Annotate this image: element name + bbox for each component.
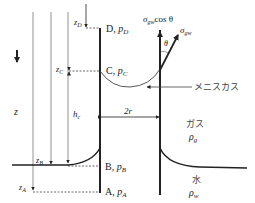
rho-w-label: ρw: [188, 187, 199, 200]
two-r-label: 2r: [124, 106, 133, 116]
hc-label: hc: [73, 109, 81, 120]
sigma-vector: [160, 35, 178, 70]
zB-label: zB: [35, 156, 43, 166]
z-axis: z: [13, 50, 18, 117]
meniscus-label: メニスカス: [194, 82, 239, 92]
water-surface-right: [160, 148, 247, 168]
zA-label: zA: [18, 183, 26, 193]
point-D-label: D, pD: [106, 23, 128, 36]
water-surface-left: [12, 148, 100, 165]
water-label: 水: [192, 174, 201, 185]
gas-label: ガス: [186, 119, 204, 129]
sigma-cos-label: σgwcos θ: [143, 14, 173, 25]
theta-label: θ: [164, 39, 168, 48]
zD-label: zD: [73, 18, 82, 28]
point-C-label: C, pC: [106, 65, 128, 78]
sigma-label: σgw: [180, 25, 191, 36]
z-axis-label: z: [13, 106, 18, 117]
zC-label: zC: [55, 65, 64, 75]
point-A-label: A, pA: [105, 186, 127, 199]
rho-g-label: ρg: [188, 131, 198, 144]
theta-arc: [160, 51, 168, 53]
point-B-label: B, pB: [105, 161, 127, 174]
capillary-diagram: z zD zC zB zA hc D, pD C, pC B, pB A, pA…: [0, 0, 255, 203]
